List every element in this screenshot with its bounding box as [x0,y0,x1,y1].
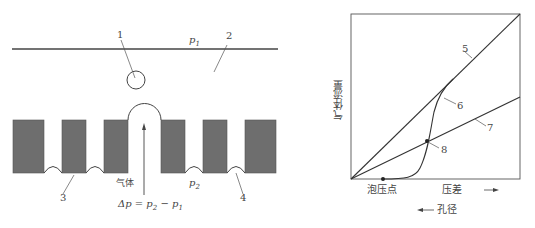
x-axis-label: 压差 [442,185,462,195]
membrane-schematic [12,40,278,195]
y-axis-label: 气体流量 [334,80,344,120]
leader-6 [444,98,456,104]
delta-p-minus: − p [157,198,178,209]
delta-p-sub1: 1 [178,204,182,212]
callout-1: 1 [117,30,123,40]
delta-p-formula: Δp = p2 − p1 [118,199,183,213]
label-p1: p1 [189,35,200,49]
arrow-right-icon [493,188,499,192]
small-bubble [127,71,145,89]
callout-5: 5 [462,44,468,54]
p1-subscript: 1 [195,40,199,48]
large-bubble [128,104,161,121]
p2-subscript: 2 [195,183,199,191]
leader-1 [121,40,135,78]
wet-curve [383,79,453,179]
leader-4 [236,173,243,194]
callout-7: 7 [487,123,493,133]
callout-6: 6 [457,101,463,111]
delta-p-left: Δp = p [118,198,153,209]
pore-size-label: 孔径 [437,205,457,215]
dry-curve-line [351,14,520,179]
gas-label: 气体 [116,178,134,188]
flow-pressure-chart [351,14,520,212]
callout-4: 4 [240,193,246,203]
bubble-point-dot [381,177,385,181]
leader-8 [428,142,439,148]
leader-7 [475,119,486,126]
callout-2: 2 [226,31,232,41]
half-dry-line [351,97,520,179]
label-p2: p2 [189,178,200,192]
arrow-left-icon [417,208,423,212]
callout-3: 3 [60,193,66,203]
callout-8: 8 [441,145,447,155]
bubble-point-label: 泡压点 [367,185,397,195]
arrow-head-icon [142,123,146,130]
